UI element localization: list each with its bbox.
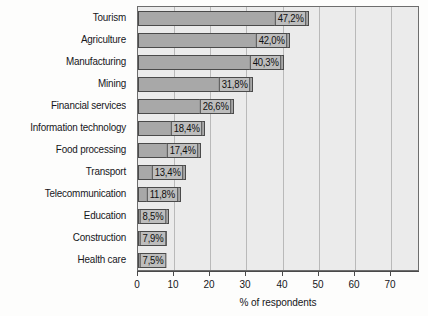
bar-value-label: 7,5% xyxy=(140,253,167,268)
bar-value-label: 31,8% xyxy=(219,77,251,92)
x-tick-label: 0 xyxy=(134,278,140,290)
x-tick-label: 10 xyxy=(168,278,179,290)
bar-value-label: 8,5% xyxy=(140,209,167,224)
category-label: Financial services xyxy=(8,100,126,111)
x-tick xyxy=(390,271,391,276)
bar-row: 18,4% xyxy=(138,121,420,136)
x-tick-label: 60 xyxy=(348,278,359,290)
x-axis: 010203040506070 xyxy=(137,271,419,272)
x-tick xyxy=(318,271,319,276)
bar-row: 47,2% xyxy=(138,11,420,26)
category-label: Construction xyxy=(8,232,126,243)
category-label: Agriculture xyxy=(8,34,126,45)
x-tick-label: 50 xyxy=(312,278,323,290)
x-tick xyxy=(245,271,246,276)
bar-row: 7,9% xyxy=(138,231,420,246)
bar-value-label: 42,0% xyxy=(256,33,288,48)
bar-value-label: 47,2% xyxy=(274,11,306,26)
x-tick-label: 40 xyxy=(276,278,287,290)
x-tick xyxy=(354,271,355,276)
bar-value-label: 26,6% xyxy=(200,99,232,114)
bar-chart: TourismAgricultureManufacturingMiningFin… xyxy=(0,0,428,316)
bar-row: 11,8% xyxy=(138,187,420,202)
bar-value-label: 11,8% xyxy=(146,187,177,202)
bar-value-label: 7,9% xyxy=(140,231,167,246)
bar-row: 40,3% xyxy=(138,55,420,70)
x-axis-title: % of respondents xyxy=(143,296,414,308)
plot-area: 47,2%42,0%40,3%31,8%26,6%18,4%17,4%13,4%… xyxy=(137,6,419,271)
category-label: Tourism xyxy=(8,12,126,23)
bar-row: 31,8% xyxy=(138,77,420,92)
bar-row: 17,4% xyxy=(138,143,420,158)
category-label: Transport xyxy=(8,166,126,177)
bar-row: 13,4% xyxy=(138,165,420,180)
bar-value-label: 40,3% xyxy=(250,55,282,70)
x-tick-label: 20 xyxy=(204,278,215,290)
x-tick-label: 70 xyxy=(385,278,396,290)
x-tick-label: 30 xyxy=(240,278,251,290)
bar-row: 7,5% xyxy=(138,253,420,268)
category-label: Health care xyxy=(8,254,126,265)
category-label: Mining xyxy=(8,78,126,89)
category-label: Education xyxy=(8,210,126,221)
category-label: Food processing xyxy=(8,144,126,155)
bar-value-label: 18,4% xyxy=(170,121,202,136)
x-tick xyxy=(173,271,174,276)
category-axis: TourismAgricultureManufacturingMiningFin… xyxy=(0,6,131,271)
x-tick xyxy=(137,271,138,276)
bar-value-label: 13,4% xyxy=(152,165,184,180)
category-label: Manufacturing xyxy=(8,56,126,67)
category-label: Telecommunication xyxy=(8,188,126,199)
x-tick xyxy=(282,271,283,276)
x-tick xyxy=(209,271,210,276)
bar-value-label: 17,4% xyxy=(167,143,199,158)
bar-row: 8,5% xyxy=(138,209,420,224)
category-label: Information technology xyxy=(8,122,126,133)
bar-row: 26,6% xyxy=(138,99,420,114)
bar-row: 42,0% xyxy=(138,33,420,48)
